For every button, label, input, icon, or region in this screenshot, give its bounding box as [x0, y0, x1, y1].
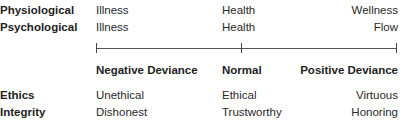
integrity-normal: Trustworthy [222, 105, 282, 119]
ethics-positive: Virtuous [356, 88, 398, 102]
axis-label-negative-deviance: Negative Deviance [96, 63, 198, 77]
axis-tick-right [396, 43, 397, 53]
row-label-ethics: Ethics [0, 88, 35, 102]
psychological-normal: Health [222, 20, 255, 34]
axis-tick-center [241, 43, 242, 53]
psychological-positive: Flow [374, 20, 398, 34]
integrity-negative: Dishonest [96, 105, 147, 119]
row-label-physiological: Physiological [0, 3, 74, 17]
physiological-normal: Health [222, 3, 255, 17]
ethics-normal: Ethical [222, 88, 257, 102]
physiological-positive: Wellness [352, 3, 398, 17]
ethics-negative: Unethical [96, 88, 144, 102]
axis-label-normal: Normal [222, 63, 262, 77]
axis-label-positive-deviance: Positive Deviance [300, 63, 398, 77]
integrity-positive: Honoring [351, 105, 398, 119]
physiological-negative: Illness [96, 3, 129, 17]
psychological-negative: Illness [96, 20, 129, 34]
row-label-psychological: Psychological [0, 20, 77, 34]
axis-tick-left [96, 43, 97, 53]
continuum-axis-line [96, 48, 396, 49]
row-label-integrity: Integrity [0, 105, 45, 119]
